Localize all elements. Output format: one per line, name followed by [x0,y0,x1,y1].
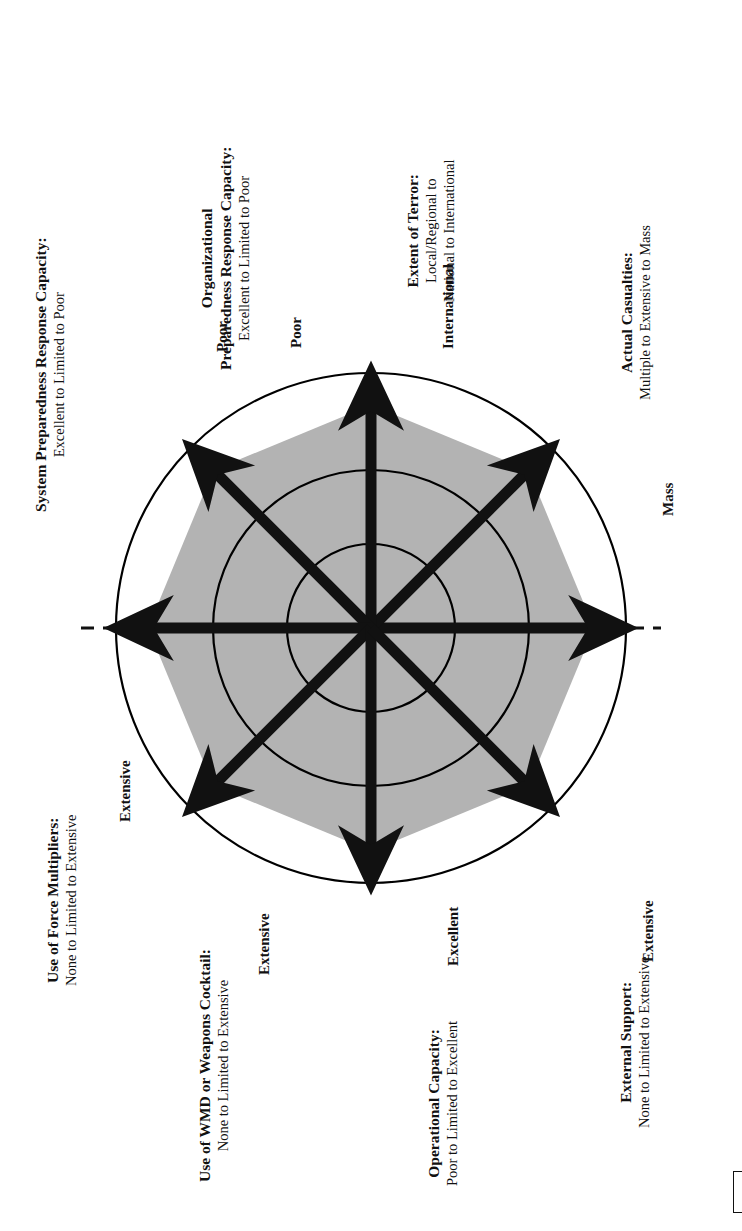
axis-caption-organizational-preparedness: Organizational Preparedness Response Cap… [198,147,254,370]
axis-caption-title: Operational Capacity: [425,1021,444,1186]
axis-caption-scale: Excellent to Limited to Poor [236,147,254,370]
axis-caption-external-support: External Support: None to Limited to Ext… [617,956,654,1128]
axis-tip-system-preparedness: Poor [288,317,305,348]
axis-tip-actual-casualties: Mass [660,483,677,516]
axis-caption-operational-capacity: Operational Capacity: Poor to Limited to… [425,1021,462,1186]
axis-caption-use-of-wmd: Use of WMD or Weapons Cocktail: None to … [196,949,233,1182]
axis-tip-use-of-force-multipliers: Extensive [117,760,134,822]
axis-caption-scale: None to Limited to Extensive [636,956,654,1128]
axis-caption-scale: None to Limited to Extensive [215,949,233,1182]
axis-caption-actual-casualties: Actual Casualties: Multiple to Extensive… [618,225,655,400]
page-edge-mark [733,1171,742,1213]
radar-chart-figure: Poor Poor International Mass Extensive E… [0,0,742,1231]
axis-caption-scale-line2: National to International [441,159,459,302]
axis-caption-extent-of-terror: Extent of Terror: Local/Regional to Nati… [404,159,458,302]
axis-caption-title-line1: Organizational [198,147,217,370]
axis-caption-title-line2: Preparedness Response Capacity: [217,147,236,370]
axis-caption-title: Use of Force Multipliers: [44,814,63,986]
axis-caption-title: Extent of Terror: [404,159,423,302]
axis-tip-use-of-wmd: Extensive [256,913,273,975]
axis-caption-scale: Poor to Limited to Excellent [444,1021,462,1186]
axis-caption-title: Actual Casualties: [618,225,637,400]
axis-caption-scale-line1: Local/Regional to [423,159,441,302]
axis-tip-operational-capacity: Excellent [445,907,462,966]
axis-caption-scale: Multiple to Extensive to Mass [637,225,655,400]
axis-caption-scale: None to Limited to Extensive [63,814,81,986]
axis-caption-scale: Excellent to Limited to Poor [51,237,69,512]
axis-caption-title: System Preparedness Response Capacity: [32,237,51,512]
axis-caption-use-of-force-multipliers: Use of Force Multipliers: None to Limite… [44,814,81,986]
axis-tip-external-support: Extensive [640,900,657,962]
axis-caption-title: External Support: [617,956,636,1128]
axis-caption-title: Use of WMD or Weapons Cocktail: [196,949,215,1182]
axis-caption-system-preparedness: System Preparedness Response Capacity: E… [32,237,69,512]
